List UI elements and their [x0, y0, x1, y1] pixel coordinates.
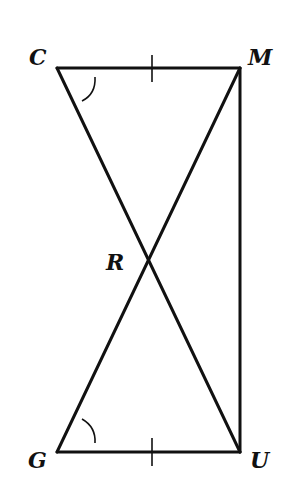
- label-G: G: [28, 447, 47, 473]
- label-U: U: [250, 447, 271, 473]
- angle-arc-G: [82, 419, 95, 443]
- label-C: C: [29, 44, 47, 70]
- label-M: M: [247, 44, 273, 70]
- geometry-diagram: C M R G U: [0, 0, 293, 503]
- angle-arc-C: [82, 77, 95, 101]
- label-R: R: [105, 249, 124, 275]
